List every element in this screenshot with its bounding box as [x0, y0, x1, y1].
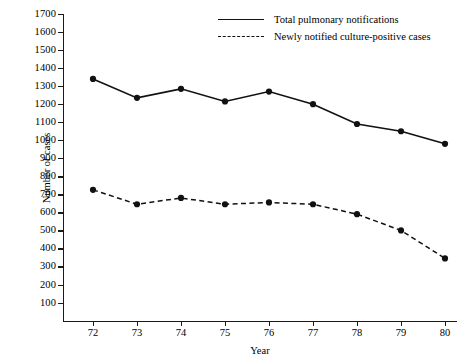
- legend-line-dashed-icon: [218, 32, 264, 42]
- legend-item-total-pulmonary: Total pulmonary notifications: [218, 11, 458, 28]
- y-tick-label: 200: [40, 279, 56, 290]
- y-tick-label: 1100: [35, 117, 56, 128]
- legend-label: Newly notified culture-positive cases: [274, 31, 431, 42]
- y-tick-label: 1500: [35, 45, 56, 56]
- x-axis-title: Year: [250, 345, 269, 356]
- y-tick-label: 600: [40, 207, 56, 218]
- data-point: [310, 101, 316, 107]
- series-layer: [63, 14, 457, 322]
- data-point: [90, 76, 96, 82]
- data-point: [310, 201, 316, 207]
- y-tick-label: 1300: [35, 81, 56, 92]
- data-point: [266, 199, 272, 205]
- data-point: [442, 141, 448, 147]
- x-tick-label: 73: [132, 327, 143, 338]
- data-point: [354, 211, 360, 217]
- data-point: [178, 195, 184, 201]
- x-tick-label: 77: [308, 327, 319, 338]
- data-point: [222, 201, 228, 207]
- y-tick-label: 100: [40, 297, 56, 308]
- x-tick-label: 75: [220, 327, 231, 338]
- x-tick-label: 80: [440, 327, 451, 338]
- data-point: [134, 95, 140, 101]
- data-point: [442, 255, 448, 261]
- legend-line-solid-icon: [218, 15, 264, 25]
- y-tick-label: 1200: [35, 99, 56, 110]
- data-point: [354, 121, 360, 127]
- data-point: [178, 86, 184, 92]
- y-tick-label: 400: [40, 243, 56, 254]
- legend-item-culture-positive: Newly notified culture-positive cases: [218, 28, 458, 45]
- x-tick-label: 79: [396, 327, 407, 338]
- y-axis-title: Number of cases: [41, 133, 52, 204]
- y-tick-label: 300: [40, 261, 56, 272]
- data-point: [90, 187, 96, 193]
- data-point: [222, 98, 228, 104]
- plot-area: 1002003004005006007008009001000110012001…: [63, 14, 457, 322]
- y-tick-label: 1600: [35, 27, 56, 38]
- y-tick-label: 1400: [35, 63, 56, 74]
- x-tick-label: 76: [264, 327, 275, 338]
- x-tick-label: 74: [176, 327, 187, 338]
- data-point: [398, 227, 404, 233]
- chart-figure: 1002003004005006007008009001000110012001…: [0, 0, 469, 363]
- data-point: [398, 128, 404, 134]
- x-tick-label: 72: [88, 327, 99, 338]
- data-point: [266, 88, 272, 94]
- legend: Total pulmonary notifications Newly noti…: [218, 11, 458, 45]
- legend-label: Total pulmonary notifications: [274, 14, 399, 25]
- x-tick-label: 78: [352, 327, 363, 338]
- y-tick-label: 500: [40, 225, 56, 236]
- data-point: [134, 201, 140, 207]
- y-tick-label: 1700: [35, 9, 56, 20]
